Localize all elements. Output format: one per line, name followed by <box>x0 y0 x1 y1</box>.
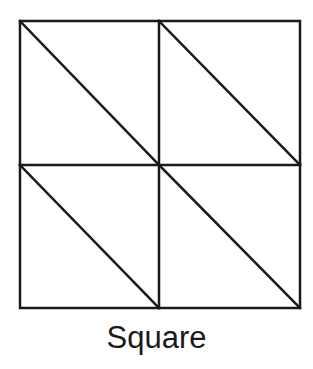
diagram-caption: Square <box>0 318 313 358</box>
diagonal-top-left <box>20 21 159 165</box>
diagonal-top-right <box>159 21 300 165</box>
square-figure <box>0 0 313 320</box>
diagonal-bottom-left <box>20 165 159 308</box>
diagonal-bottom-right <box>159 165 300 308</box>
